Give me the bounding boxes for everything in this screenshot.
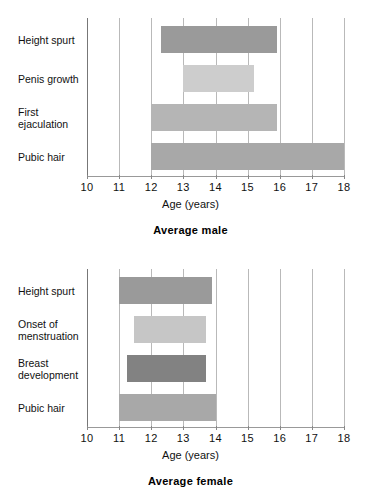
tick-17 [312,426,313,430]
tick-14 [216,175,217,179]
tick-11 [119,426,120,430]
tick-16 [280,426,281,430]
bars-female [87,269,344,426]
tick-label-17: 17 [305,432,318,444]
tick-17 [312,175,313,179]
category-label-height-spurt: Height spurt [18,285,88,297]
tick-label-16: 16 [273,181,286,193]
category-label-first-ejaculation: First ejaculation [18,106,88,130]
tick-label-15: 15 [241,181,254,193]
tick-label-18: 18 [337,432,350,444]
tick-label-16: 16 [273,432,286,444]
tick-13 [183,175,184,179]
tick-14 [216,426,217,430]
tick-label-15: 15 [241,432,254,444]
tick-15 [248,426,249,430]
tick-15 [248,175,249,179]
chart-average-female: 101112131415161718 Height spurtOnset of … [0,251,381,502]
plot-area-male: 101112131415161718 Height spurtPenis gro… [0,0,381,175]
bar-first-ejaculation [151,104,276,131]
tick-label-11: 11 [113,432,125,444]
tick-label-11: 11 [113,181,125,193]
tick-label-13: 13 [177,181,190,193]
gridline-18 [344,269,345,426]
tick-label-13: 13 [177,432,190,444]
tick-10 [87,426,88,430]
category-label-penis-growth: Penis growth [18,73,88,85]
tick-label-18: 18 [337,181,350,193]
category-label-pubic-hair: Pubic hair [18,402,88,414]
chart-caption-female: Average female [0,475,381,487]
tick-label-10: 10 [80,181,93,193]
tick-label-12: 12 [145,181,158,193]
bar-pubic-hair [119,394,215,421]
category-label-breast-development: Breast development [18,357,88,381]
category-label-pubic-hair: Pubic hair [18,151,88,163]
gridline-18 [344,18,345,175]
tick-label-10: 10 [80,432,93,444]
chart-caption-male: Average male [0,224,381,236]
bar-penis-growth [183,65,254,92]
category-label-height-spurt: Height spurt [18,34,88,46]
chart-average-male: 101112131415161718 Height spurtPenis gro… [0,0,381,251]
tick-label-17: 17 [305,181,318,193]
bar-onset-of-menstruation [134,316,206,343]
tick-18 [344,175,345,179]
bar-pubic-hair [151,143,344,170]
tick-10 [87,175,88,179]
tick-13 [183,426,184,430]
tick-16 [280,175,281,179]
tick-12 [151,175,152,179]
tick-label-12: 12 [145,432,158,444]
tick-12 [151,426,152,430]
bar-height-spurt [161,26,277,53]
tick-label-14: 14 [209,181,222,193]
bar-breast-development [127,355,206,382]
x-axis-title-male: Age (years) [0,198,381,210]
tick-18 [344,426,345,430]
figure-page: 101112131415161718 Height spurtPenis gro… [0,0,381,502]
x-axis-title-female: Age (years) [0,449,381,461]
plot-area-female: 101112131415161718 Height spurtOnset of … [0,251,381,426]
category-label-onset-of-menstruation: Onset of menstruation [18,318,88,342]
bar-height-spurt [119,277,212,304]
tick-11 [119,175,120,179]
bars-male [87,18,344,175]
tick-label-14: 14 [209,432,222,444]
